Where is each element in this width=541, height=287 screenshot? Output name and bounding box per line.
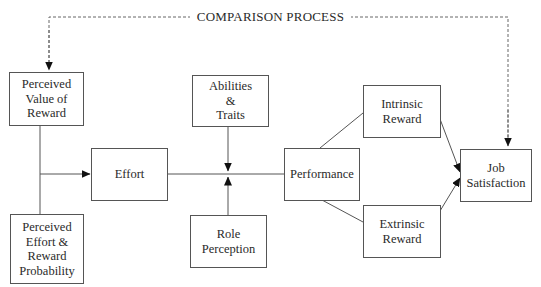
node-line: Reward bbox=[19, 249, 75, 264]
node-abilities-traits: Abilities & Traits bbox=[192, 75, 269, 127]
node-job-satisfaction: Job Satisfaction bbox=[460, 149, 532, 202]
node-line: Intrinsic bbox=[381, 97, 423, 112]
node-perceived-effort-reward-probability: Perceived Effort & Reward Probability bbox=[10, 214, 84, 284]
node-line: & bbox=[209, 94, 252, 109]
node-line: Reward bbox=[381, 112, 423, 127]
node-role-perception: Role Perception bbox=[190, 215, 267, 268]
comparison-process-label: COMPARISON PROCESS bbox=[0, 9, 541, 25]
node-intrinsic-reward: Intrinsic Reward bbox=[363, 85, 441, 138]
node-line: Perceived bbox=[19, 220, 75, 235]
node-line: Effort bbox=[115, 167, 145, 182]
node-performance: Performance bbox=[284, 148, 360, 201]
node-extrinsic-reward: Extrinsic Reward bbox=[363, 205, 441, 258]
node-line: Perceived bbox=[22, 77, 71, 92]
node-line: Reward bbox=[22, 106, 71, 121]
node-effort: Effort bbox=[91, 148, 168, 201]
node-line: Satisfaction bbox=[466, 176, 525, 191]
node-perceived-value-of-reward: Perceived Value of Reward bbox=[9, 72, 84, 126]
node-line: Reward bbox=[379, 232, 424, 247]
node-line: Value of bbox=[22, 92, 71, 107]
node-line: Job bbox=[466, 161, 525, 176]
node-line: Abilities bbox=[209, 79, 252, 94]
node-line: Probability bbox=[19, 264, 75, 279]
node-line: Performance bbox=[290, 167, 354, 182]
node-line: Effort & bbox=[19, 235, 75, 250]
node-line: Role bbox=[202, 227, 255, 242]
comparison-process-text: COMPARISON PROCESS bbox=[190, 9, 351, 24]
performance-extrinsic-line bbox=[322, 200, 363, 222]
node-line: Perception bbox=[202, 242, 255, 257]
performance-intrinsic-line bbox=[320, 113, 363, 148]
intrinsic-satisfaction-arrow bbox=[440, 119, 460, 172]
node-line: Traits bbox=[209, 108, 252, 123]
extrinsic-satisfaction-arrow bbox=[440, 178, 460, 211]
node-line: Extrinsic bbox=[379, 217, 424, 232]
